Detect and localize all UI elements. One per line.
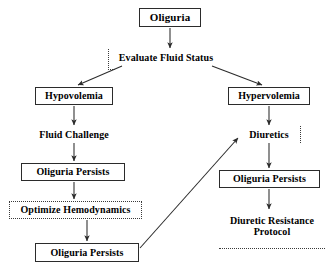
edge-evaluate-to-hypovolemia [78, 66, 122, 85]
dotted-rule-below-protocol [219, 248, 325, 250]
node-fluid-challenge: Fluid Challenge [28, 127, 120, 142]
flowchart-canvas: OliguriaEvaluate Fluid StatusHypovolemia… [0, 0, 327, 270]
edge-evaluate-to-hypervolemia [212, 66, 262, 85]
node-oliguria-persists-left-2: Oliguria Persists [35, 243, 139, 262]
node-oliguria: Oliguria [139, 8, 201, 27]
dotted-rule-left-of-evaluate [108, 49, 115, 70]
node-diuretics: Diuretics [240, 127, 298, 142]
node-oliguria-persists-right: Oliguria Persists [219, 170, 320, 188]
node-oliguria-persists-left-1: Oliguria Persists [21, 163, 125, 181]
node-evaluate-fluid-status: Evaluate Fluid Status [110, 50, 222, 65]
dotted-rule-right-of-diuretics [300, 126, 302, 143]
node-optimize-hemodynamics: Optimize Hemodynamics [9, 201, 142, 219]
node-hypervolemia: Hypervolemia [228, 87, 310, 105]
node-diuretic-resistance-protocol: Diuretic Resistance Protocol [219, 211, 325, 241]
node-hypovolemia: Hypovolemia [35, 87, 113, 105]
